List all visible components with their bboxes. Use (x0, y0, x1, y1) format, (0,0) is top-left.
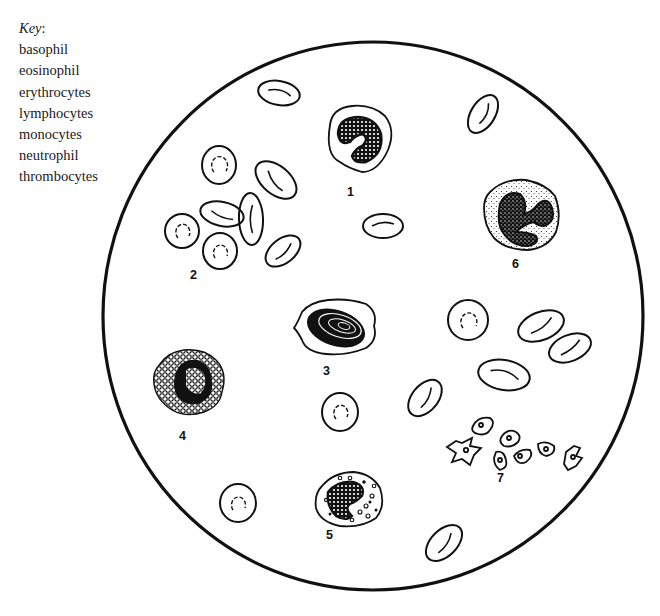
label-5: 5 (326, 528, 333, 542)
erythrocyte-side (256, 78, 302, 109)
erythrocyte-face (448, 300, 488, 340)
erythrocyte-face (322, 393, 358, 431)
erythrocyte-face (220, 484, 256, 522)
erythrocyte-side (476, 356, 532, 395)
label-3: 3 (323, 364, 330, 378)
erythrocyte-side (462, 90, 505, 138)
cell-1 (329, 106, 392, 172)
label-7: 7 (497, 471, 504, 485)
erythrocyte-side (260, 229, 306, 273)
erythrocyte-side (402, 374, 449, 423)
label-2: 2 (190, 268, 197, 282)
cell-4 (154, 350, 224, 415)
erythrocyte-side (363, 214, 403, 238)
erythrocyte-side (238, 193, 264, 246)
erythrocyte-side (545, 328, 596, 369)
cell-5 (316, 472, 383, 526)
erythrocyte-side (514, 304, 569, 348)
erythrocyte-side (419, 518, 468, 567)
label-6: 6 (512, 257, 519, 271)
cell-6 (484, 180, 559, 250)
erythrocyte-face (202, 146, 236, 184)
erythrocyte-face (165, 214, 199, 248)
label-4: 4 (179, 429, 186, 443)
blood-cell-diagram: 1 2 3 4 5 6 7 (0, 0, 660, 616)
cell-3 (294, 300, 375, 355)
cell-7-thrombocytes (447, 418, 582, 470)
label-1: 1 (347, 185, 354, 199)
erythrocyte-face (203, 233, 237, 269)
